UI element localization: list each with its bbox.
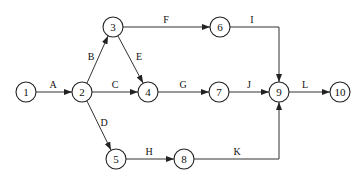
edge-label-L: L	[302, 79, 308, 90]
node-9: 9	[269, 82, 289, 102]
edge-label-K: K	[233, 146, 241, 157]
edge-A: A	[36, 79, 72, 92]
edge-G: G	[158, 79, 209, 92]
node-6: 6	[210, 17, 230, 37]
edge-label-J: J	[247, 79, 251, 90]
edge-label-B: B	[88, 51, 95, 62]
edge-label-D: D	[100, 117, 107, 128]
node-label: 10	[335, 86, 347, 98]
node-8: 8	[174, 149, 194, 169]
node-10: 10	[330, 82, 350, 102]
node-label: 6	[217, 21, 223, 33]
node-label: 9	[276, 86, 282, 98]
node-4: 4	[138, 82, 158, 102]
edge-I: I	[230, 14, 279, 82]
edge-label-H: H	[145, 146, 152, 157]
node-3: 3	[103, 17, 123, 37]
node-5: 5	[106, 149, 126, 169]
edge-F: F	[123, 14, 210, 27]
edge-E: E	[118, 36, 143, 83]
node-7: 7	[209, 82, 229, 102]
network-diagram: A B C D E F G H I J K L 1	[0, 0, 364, 180]
edge-label-C: C	[112, 79, 119, 90]
edge-K: K	[194, 102, 279, 159]
edge-label-A: A	[49, 79, 57, 90]
edge-L: L	[289, 79, 330, 92]
node-label: 1	[23, 86, 29, 98]
node-1: 1	[16, 82, 36, 102]
node-label: 2	[79, 86, 85, 98]
edge-B: B	[87, 36, 108, 83]
node-label: 4	[145, 86, 151, 98]
node-label: 7	[216, 86, 222, 98]
edge-label-G: G	[179, 79, 186, 90]
node-label: 3	[110, 21, 116, 33]
node-label: 5	[113, 153, 119, 165]
node-2: 2	[72, 82, 92, 102]
edge-D: D	[87, 101, 111, 150]
edge-label-F: F	[163, 14, 169, 25]
edge-H: H	[126, 146, 174, 159]
node-label: 8	[181, 153, 187, 165]
edge-label-E: E	[136, 51, 142, 62]
edge-C: C	[92, 79, 138, 92]
edge-J: J	[229, 79, 269, 92]
edge-label-I: I	[250, 14, 253, 25]
